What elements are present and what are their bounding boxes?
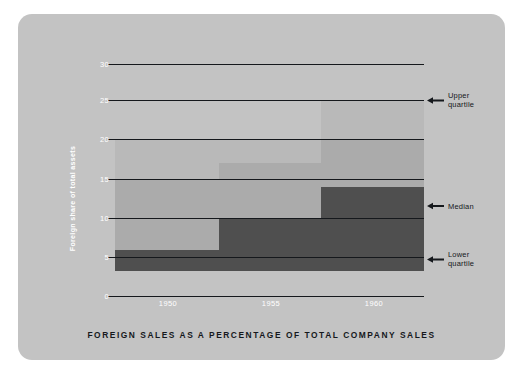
y-tick-label-25: 25 [100, 96, 109, 105]
gridline-0 [115, 296, 424, 297]
plot-area [115, 60, 424, 296]
band-lower-quartile-1950s [115, 250, 219, 271]
tick-25 [108, 100, 115, 101]
tick-10 [108, 218, 115, 219]
y-tick-label-10: 10 [100, 214, 109, 223]
band-lower-quartile-1955s [219, 219, 321, 271]
gridline-25 [115, 100, 424, 101]
x-tick-label-1960: 1960 [365, 299, 383, 308]
annotation-lower-quartile-label: Lower quartile [448, 250, 474, 268]
annotation-lower-quartile: Lower quartile [427, 250, 474, 268]
y-tick-label-15: 15 [100, 175, 109, 184]
left-arrow-icon [427, 255, 444, 264]
y-tick-label-20: 20 [100, 135, 109, 144]
chart-page: 30 25 20 15 10 5 0 Foreign share of tota… [0, 0, 522, 374]
gridline-10 [115, 218, 424, 219]
left-arrow-icon [427, 202, 444, 211]
y-tick-label-5: 5 [105, 253, 109, 262]
y-tick-label-0: 0 [105, 292, 109, 301]
y-axis-title: Foreign share of total assets [66, 118, 80, 278]
tick-30 [108, 64, 115, 65]
tick-0 [108, 296, 115, 297]
x-tick-label-1950: 1950 [159, 299, 177, 308]
band-lower-quartile-1960s [321, 187, 424, 271]
annotation-median-label: Median [448, 202, 474, 211]
gridline-20 [115, 139, 424, 140]
tick-15 [108, 179, 115, 180]
annotation-upper-quartile: Upper quartile [427, 91, 474, 109]
y-tick-label-30: 30 [100, 60, 109, 69]
x-axis-tick-labels: 1950 1955 1960 [115, 299, 424, 313]
annotation-upper-quartile-label: Upper quartile [448, 91, 474, 109]
gridline-5 [115, 257, 424, 258]
x-tick-label-1955: 1955 [262, 299, 280, 308]
tick-5 [108, 257, 115, 258]
y-axis-title-text: Foreign share of total assets [70, 145, 77, 250]
chart-caption: FOREIGN SALES AS A PERCENTAGE OF TOTAL C… [18, 330, 505, 340]
y-axis-tick-labels: 30 25 20 15 10 5 0 [95, 60, 109, 296]
annotation-median: Median [427, 202, 474, 211]
gridline-15 [115, 179, 424, 180]
left-arrow-icon [427, 96, 444, 105]
tick-20 [108, 139, 115, 140]
gridline-30 [115, 64, 424, 65]
